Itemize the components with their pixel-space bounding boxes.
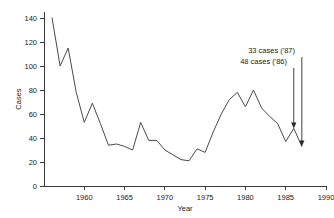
y-tick-label: 80 (29, 86, 37, 95)
y-axis-title: Cases (14, 88, 23, 110)
x-tick-label: 1960 (76, 193, 93, 202)
annotation-arrows (291, 57, 304, 146)
x-tick-label: 1975 (197, 193, 214, 202)
x-tick-label: 1985 (277, 193, 294, 202)
x-tick-label: 1990 (318, 193, 334, 202)
x-tick-label: 1965 (116, 193, 133, 202)
y-tick-label: 140 (24, 14, 37, 23)
x-axis-title: Year (177, 204, 193, 213)
x-tick-label: 1980 (237, 193, 254, 202)
y-axis-tick-labels: 020406080100120140 (24, 14, 37, 191)
annotation-label-1986: 48 cases ('86) (240, 57, 287, 66)
x-axis-ticks (84, 186, 326, 190)
y-tick-label: 0 (33, 182, 37, 191)
cases-by-year-line-chart: 020406080100120140 196019651970197519801… (0, 0, 334, 218)
y-tick-label: 20 (29, 158, 37, 167)
y-tick-label: 120 (24, 38, 37, 47)
y-axis-ticks (40, 18, 44, 186)
data-series-line (52, 18, 302, 161)
annotation-label-1987: 33 cases ('87) (248, 46, 295, 55)
y-tick-label: 40 (29, 134, 37, 143)
x-axis-tick-labels: 1960196519701975198019851990 (76, 193, 334, 202)
y-tick-label: 60 (29, 110, 37, 119)
annotation-arrow-head (291, 122, 296, 128)
y-tick-label: 100 (24, 62, 37, 71)
chart-container: 020406080100120140 196019651970197519801… (0, 0, 334, 218)
x-tick-label: 1970 (157, 193, 174, 202)
